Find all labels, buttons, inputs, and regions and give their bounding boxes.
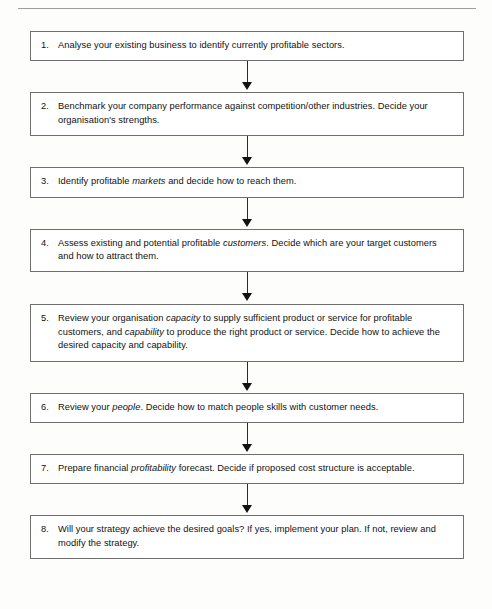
arrow-stem [247,484,248,507]
down-arrow-icon [242,505,252,513]
step-number: 6. [41,401,58,414]
step-text-segment: Benchmark your company performance again… [58,101,428,124]
flow-step-7: 7.Prepare financial profitability foreca… [30,454,464,484]
arrow-stem [247,198,248,221]
step-text: Prepare financial profitability forecast… [58,462,453,475]
flow-step-4: 4.Assess existing and potential profitab… [30,229,464,273]
step-row: 2.Benchmark your company performance aga… [41,100,453,127]
step-row: 8.Will your strategy achieve the desired… [41,523,453,550]
step-text: Review your organisation capacity to sup… [58,312,453,352]
down-arrow-icon [242,157,252,165]
emphasised-term: markets [132,176,165,186]
step-row: 1.Analyse your existing business to iden… [41,39,453,52]
step-number: 2. [41,100,58,113]
step-text: Assess existing and potential profitable… [58,237,453,264]
step-row: 7.Prepare financial profitability foreca… [41,462,453,475]
emphasised-term: capability [125,327,164,337]
flow-arrow-2-to-3 [30,136,464,167]
step-row: 4.Assess existing and potential profitab… [41,237,453,264]
down-arrow-icon [242,82,252,90]
step-text-segment: Assess existing and potential profitable [58,238,223,248]
arrow-stem [247,362,248,385]
down-arrow-icon [242,444,252,452]
flow-arrow-7-to-8 [30,484,464,515]
flow-step-5: 5.Review your organisation capacity to s… [30,304,464,361]
step-row: 5.Review your organisation capacity to s… [41,312,453,352]
emphasised-term: customers [223,238,266,248]
emphasised-term: capacity [166,313,200,323]
step-text: Identify profitable markets and decide h… [58,175,453,188]
step-number: 3. [41,175,58,188]
flow-step-2: 2.Benchmark your company performance aga… [30,92,464,136]
step-text-segment: Review your organisation [58,313,166,323]
flow-arrow-1-to-2 [30,61,464,92]
step-text: Will your strategy achieve the desired g… [58,523,453,550]
arrow-stem [247,61,248,84]
emphasised-term: profitability [131,463,176,473]
emphasised-term: people [112,402,140,412]
step-text-segment: Prepare financial [58,463,131,473]
flow-step-1: 1.Analyse your existing business to iden… [30,31,464,61]
arrow-stem [247,423,248,446]
step-text-segment: . Decide how to match people skills with… [140,402,378,412]
strategy-flowchart: 1.Analyse your existing business to iden… [30,31,464,559]
step-row: 3.Identify profitable markets and decide… [41,175,453,188]
down-arrow-icon [242,293,252,301]
step-number: 7. [41,462,58,475]
flow-step-6: 6.Review your people. Decide how to matc… [30,393,464,423]
step-text-segment: Will your strategy achieve the desired g… [58,524,436,547]
down-arrow-icon [242,219,252,227]
step-number: 5. [41,312,58,325]
step-text: Review your people. Decide how to match … [58,401,453,414]
step-number: 4. [41,237,58,250]
arrow-stem [247,272,248,295]
flow-step-3: 3.Identify profitable markets and decide… [30,167,464,197]
step-text-segment: Review your [58,402,112,412]
flow-step-8: 8.Will your strategy achieve the desired… [30,515,464,559]
step-text-segment: Analyse your existing business to identi… [58,40,345,50]
step-text-segment: forecast. Decide if proposed cost struct… [176,463,415,473]
step-text: Analyse your existing business to identi… [58,39,453,52]
flow-arrow-5-to-6 [30,362,464,393]
flow-arrow-6-to-7 [30,423,464,454]
step-text: Benchmark your company performance again… [58,100,453,127]
step-text-segment: and decide how to reach them. [166,176,297,186]
step-number: 8. [41,523,58,536]
step-text-segment: Identify profitable [58,176,132,186]
flow-arrow-3-to-4 [30,198,464,229]
step-number: 1. [41,39,58,52]
arrow-stem [247,136,248,159]
flow-arrow-4-to-5 [30,272,464,304]
page-top-rule [18,8,476,9]
step-row: 6.Review your people. Decide how to matc… [41,401,453,414]
down-arrow-icon [242,383,252,391]
